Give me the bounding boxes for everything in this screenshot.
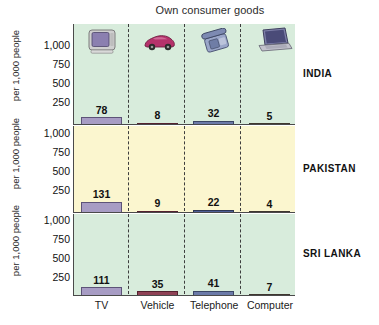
value-sri-lanka-vehicle: 35 bbox=[137, 278, 178, 290]
value-india-computer: 5 bbox=[249, 110, 290, 122]
chart-figure: Own consumer goods per 1,000 people per … bbox=[0, 0, 379, 325]
y-tick-250: 250 bbox=[28, 184, 70, 196]
x-label-telephone: Telephone bbox=[190, 299, 238, 311]
y-axis-unit-label-india: per 1,000 people bbox=[10, 18, 21, 114]
x-label-tv: TV bbox=[81, 299, 122, 311]
panel-pakistan: 131 9 22 4 bbox=[73, 126, 295, 213]
divider-tv-vehicle bbox=[128, 126, 129, 211]
value-sri-lanka-computer: 7 bbox=[249, 281, 290, 293]
value-pakistan-computer: 4 bbox=[249, 198, 290, 210]
y-tick-750: 750 bbox=[28, 146, 70, 158]
value-india-vehicle: 8 bbox=[137, 109, 178, 121]
divider-vehicle-telephone bbox=[184, 214, 185, 294]
y-tick-1000: 1,000 bbox=[28, 214, 70, 226]
divider-telephone-computer bbox=[240, 214, 241, 294]
divider-telephone-computer bbox=[240, 126, 241, 211]
y-axis-ticks-india: 1,000 750 500 250 bbox=[26, 24, 70, 125]
y-tick-1000: 1,000 bbox=[28, 127, 70, 139]
divider-vehicle-telephone bbox=[184, 24, 185, 123]
axis-baseline-pakistan bbox=[73, 212, 295, 213]
axis-baseline-india bbox=[73, 124, 295, 125]
country-label-pakistan: PAKISTAN bbox=[303, 163, 356, 174]
value-india-tv: 78 bbox=[81, 104, 122, 116]
value-india-telephone: 32 bbox=[193, 107, 234, 119]
y-tick-250: 250 bbox=[28, 96, 70, 108]
value-pakistan-vehicle: 9 bbox=[137, 197, 178, 209]
value-sri-lanka-telephone: 41 bbox=[193, 277, 234, 289]
telephone-icon bbox=[200, 28, 232, 59]
divider-tv-vehicle bbox=[128, 214, 129, 294]
axis-baseline-sri-lanka bbox=[73, 295, 295, 296]
y-tick-750: 750 bbox=[28, 58, 70, 70]
panel-india: 78 8 32 5 bbox=[73, 24, 295, 125]
y-axis-unit-label-sri-lanka: per 1,000 people bbox=[10, 193, 21, 289]
value-sri-lanka-tv: 111 bbox=[81, 274, 122, 286]
y-tick-500: 500 bbox=[28, 165, 70, 177]
y-axis-ticks-sri-lanka: 1,000 750 500 250 bbox=[26, 214, 70, 296]
panel-sri-lanka: 111 35 41 7 bbox=[73, 214, 295, 296]
laptop-icon bbox=[255, 27, 293, 58]
car-icon bbox=[142, 32, 176, 56]
country-label-india: INDIA bbox=[303, 68, 332, 79]
y-tick-250: 250 bbox=[28, 271, 70, 283]
chart-title: Own consumer goods bbox=[125, 4, 295, 16]
tv-icon bbox=[87, 29, 117, 59]
x-label-computer: Computer bbox=[244, 299, 296, 311]
y-tick-500: 500 bbox=[28, 252, 70, 264]
country-label-sri-lanka: SRI LANKA bbox=[303, 248, 361, 259]
divider-tv-vehicle bbox=[128, 24, 129, 123]
y-tick-500: 500 bbox=[28, 77, 70, 89]
value-pakistan-telephone: 22 bbox=[193, 196, 234, 208]
y-tick-1000: 1,000 bbox=[28, 39, 70, 51]
value-pakistan-tv: 131 bbox=[81, 188, 122, 200]
y-axis-ticks-pakistan: 1,000 750 500 250 bbox=[26, 126, 70, 213]
y-tick-750: 750 bbox=[28, 233, 70, 245]
divider-vehicle-telephone bbox=[184, 126, 185, 211]
y-axis-unit-label-pakistan: per 1,000 people bbox=[10, 106, 21, 202]
divider-telephone-computer bbox=[240, 24, 241, 123]
x-label-vehicle: Vehicle bbox=[137, 299, 178, 311]
